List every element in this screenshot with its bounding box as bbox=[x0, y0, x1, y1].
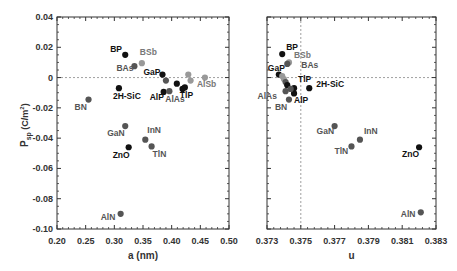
data-point bbox=[174, 81, 180, 87]
data-point bbox=[179, 86, 185, 92]
point-label: InN bbox=[147, 125, 161, 135]
point-label: BSb bbox=[140, 47, 157, 57]
polarization-scatter-figure: 0.200.250.300.350.400.450.500.040.020-0.… bbox=[0, 0, 457, 271]
y-tick-label: 0.04 bbox=[35, 12, 53, 22]
x-tick-label: 0.45 bbox=[192, 236, 210, 246]
point-label: TlN bbox=[335, 146, 349, 156]
data-point-inn bbox=[142, 137, 148, 143]
data-point-2h-sic bbox=[306, 85, 312, 91]
data-point-tln bbox=[348, 143, 354, 149]
point-label: BN bbox=[75, 102, 87, 112]
left-panel-psp-vs-lattice-a: 0.200.250.300.350.400.450.500.040.020-0.… bbox=[19, 12, 238, 261]
point-label: BAs bbox=[301, 60, 318, 70]
data-point-bp bbox=[279, 51, 285, 57]
data-point bbox=[187, 78, 193, 84]
x-tick-label: 0.379 bbox=[357, 236, 380, 246]
x-tick-label: 0.25 bbox=[77, 236, 95, 246]
point-label: ZnO bbox=[402, 149, 419, 159]
y-tick-label: -0.08 bbox=[32, 194, 53, 204]
data-point bbox=[185, 71, 191, 77]
data-point-inn bbox=[357, 137, 363, 143]
x-tick-label: 0.35 bbox=[134, 236, 152, 246]
data-point-bas bbox=[284, 61, 290, 67]
point-label: AlP bbox=[150, 92, 165, 102]
point-label: BN bbox=[275, 102, 287, 112]
y-tick-label: -0.06 bbox=[32, 163, 53, 173]
y-tick-label: -0.04 bbox=[32, 133, 53, 143]
point-label: BP bbox=[110, 44, 122, 54]
x-tick-label: 0.373 bbox=[256, 236, 279, 246]
x-axis-title: a (nm) bbox=[128, 250, 158, 261]
x-tick-label: 0.50 bbox=[220, 236, 238, 246]
y-tick-label: -0.10 bbox=[32, 224, 53, 234]
x-tick-label: 0.40 bbox=[163, 236, 181, 246]
data-point-bp bbox=[122, 52, 128, 58]
x-tick-label: 0.377 bbox=[323, 236, 346, 246]
point-label: ZnO bbox=[113, 150, 130, 160]
data-point-bsb bbox=[139, 60, 145, 66]
point-label: 2H-SiC bbox=[316, 79, 344, 89]
point-label: InN bbox=[364, 126, 378, 136]
x-tick-label: 0.375 bbox=[290, 236, 313, 246]
point-label: AlN bbox=[401, 209, 416, 219]
x-axis-title: u bbox=[348, 250, 354, 261]
point-label: AlN bbox=[101, 212, 116, 222]
point-label: AlP bbox=[294, 95, 309, 105]
y-tick-label: -0.02 bbox=[32, 103, 53, 113]
y-axis-title: Psp (C/m2) bbox=[19, 103, 33, 147]
data-point bbox=[288, 86, 294, 92]
data-point bbox=[163, 78, 169, 84]
x-tick-label: 0.20 bbox=[48, 236, 66, 246]
point-label: GaN bbox=[107, 128, 124, 138]
x-tick-label: 0.383 bbox=[425, 236, 448, 246]
data-point-aln bbox=[118, 211, 124, 217]
right-panel-psp-vs-u: 0.3730.3750.3770.3790.3810.383uBPBSbBAsG… bbox=[256, 17, 448, 261]
x-tick-label: 0.30 bbox=[106, 236, 124, 246]
point-label: BSb bbox=[294, 50, 311, 60]
point-label: GaP bbox=[143, 67, 160, 77]
point-label: AlSb bbox=[197, 79, 216, 89]
point-label: TlN bbox=[153, 149, 167, 159]
y-tick-label: 0.02 bbox=[35, 42, 53, 52]
point-label: GaN bbox=[317, 126, 334, 136]
point-label: AlAs bbox=[258, 91, 278, 101]
point-label: BAs bbox=[116, 63, 133, 73]
point-label: TlP bbox=[298, 74, 312, 84]
point-label: 2H-SiC bbox=[113, 91, 141, 101]
y-tick-label: 0 bbox=[48, 73, 53, 83]
point-label: GaP bbox=[268, 63, 285, 73]
data-point-aln bbox=[418, 209, 424, 215]
x-tick-label: 0.381 bbox=[391, 236, 414, 246]
